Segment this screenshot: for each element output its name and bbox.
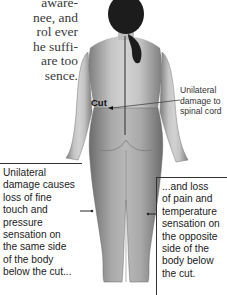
body-text-line: sence. — [0, 69, 78, 84]
label-line: spinal cord — [180, 106, 227, 117]
callout-line: of pain and — [162, 193, 227, 205]
spinal-damage-label: Unilateral damage to spinal cord — [180, 85, 227, 117]
cut-label: Cut — [91, 97, 107, 108]
callout-opposite-side: ...and loss of pain and temperature sens… — [156, 177, 227, 295]
callout-line: side of the — [162, 243, 227, 255]
callout-line: touch and — [3, 204, 82, 216]
callout-line: Unilateral — [3, 167, 82, 179]
callout-line: ...and loss — [162, 181, 227, 193]
hair — [108, 0, 144, 34]
callout-line: sensation on — [3, 229, 82, 241]
callout-line: the cut. — [162, 268, 227, 280]
callout-line: the opposite — [162, 231, 227, 243]
body-text-line: rol ever — [0, 25, 78, 40]
body-text-line: he suffi- — [0, 40, 78, 55]
callout-line: of the body — [3, 254, 82, 266]
body-text-line: are too — [0, 54, 78, 69]
body-text-column: aware- nee, and rol ever he suffi- are t… — [0, 0, 78, 84]
callout-line: body below — [162, 255, 227, 267]
callout-line: below the cut... — [3, 266, 82, 278]
label-line: Unilateral — [180, 85, 227, 96]
callout-line: sensation on — [162, 218, 227, 230]
callout-line: pressure — [3, 217, 82, 229]
label-line: damage to — [180, 96, 227, 107]
callout-line: the same side — [3, 241, 82, 253]
body-text-line: nee, and — [0, 11, 78, 26]
callout-line: loss of fine — [3, 192, 82, 204]
callout-line: temperature — [162, 206, 227, 218]
callout-line: damage causes — [3, 179, 82, 191]
callout-same-side: Unilateral damage causes loss of fine to… — [0, 163, 82, 295]
body-text-line: aware- — [0, 0, 78, 11]
